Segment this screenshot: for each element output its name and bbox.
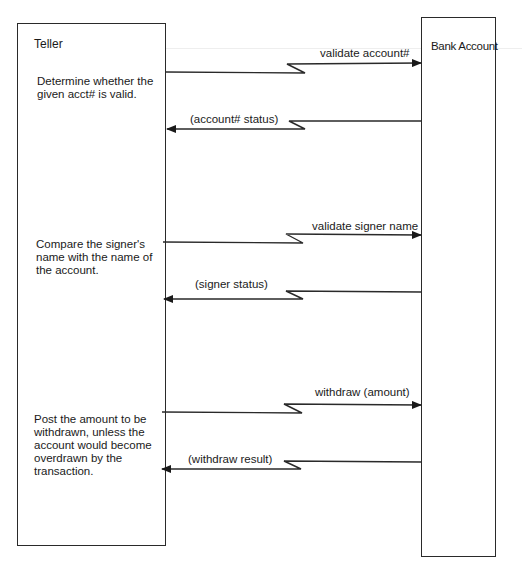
- request-label-3: withdraw (amount): [315, 386, 410, 398]
- reply-arrow-2: [164, 291, 421, 299]
- request-label-2: validate signer name: [312, 220, 418, 232]
- reply-label-3: (withdraw result): [188, 453, 272, 465]
- request-arrow-3: [162, 404, 421, 413]
- reply-label-1: (account# status): [190, 113, 278, 125]
- reply-label-2: (signer status): [195, 278, 268, 290]
- request-label-1: validate account#: [320, 47, 410, 59]
- request-arrow-2: [163, 234, 421, 243]
- request-arrow-1: [166, 63, 421, 73]
